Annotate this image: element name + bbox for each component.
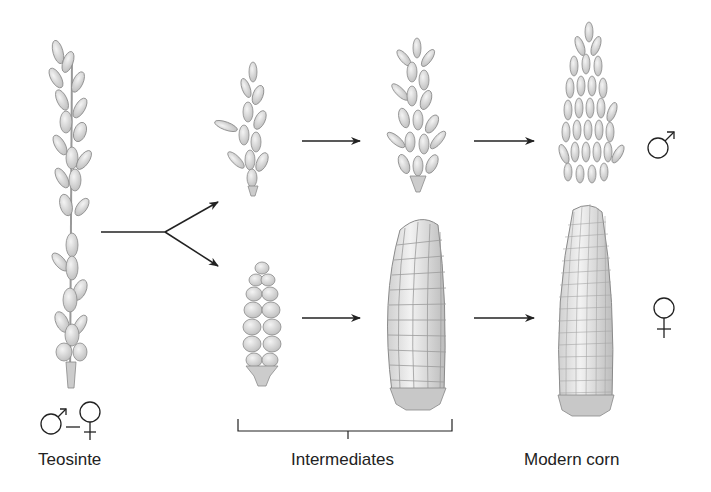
intermediates-bracket <box>238 419 452 439</box>
evolution-diagram <box>0 0 711 492</box>
intermediates-label: Intermediates <box>291 450 394 470</box>
female-symbol <box>654 298 674 338</box>
intermediate-tassel-2 <box>385 38 448 192</box>
intermediate-ear-2 <box>388 220 447 410</box>
modern-tassel <box>557 22 627 183</box>
intermediate-ear-1 <box>243 262 281 386</box>
modern-corn-cob <box>558 204 614 416</box>
modern-corn-label: Modern corn <box>524 450 619 470</box>
intermediate-tassel-1 <box>213 62 270 196</box>
teosinte-spike <box>46 39 94 388</box>
male-symbol <box>648 132 674 158</box>
split-arrow <box>101 202 218 266</box>
teosinte-label: Teosinte <box>38 450 101 470</box>
male-female-symbol <box>41 402 100 440</box>
